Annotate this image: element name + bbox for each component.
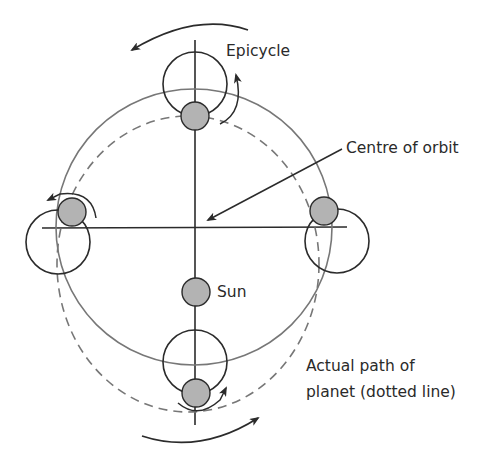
planet-bottom <box>182 379 210 407</box>
sun <box>182 278 210 306</box>
centre-of-orbit-label: Centre of orbit <box>346 139 459 158</box>
planet-right <box>310 197 338 225</box>
sun-label: Sun <box>217 283 247 302</box>
actual-path-label-line1: Actual path of <box>306 357 415 376</box>
horizontal-axis <box>42 227 347 228</box>
actual-path-label-line2: planet (dotted line) <box>306 383 456 402</box>
planet-left <box>58 198 86 226</box>
planet-top <box>181 102 209 130</box>
actual-path-dashed <box>57 116 319 412</box>
epicycle-label: Epicycle <box>226 42 290 61</box>
orbit-direction-arrow-bottom <box>142 418 258 442</box>
